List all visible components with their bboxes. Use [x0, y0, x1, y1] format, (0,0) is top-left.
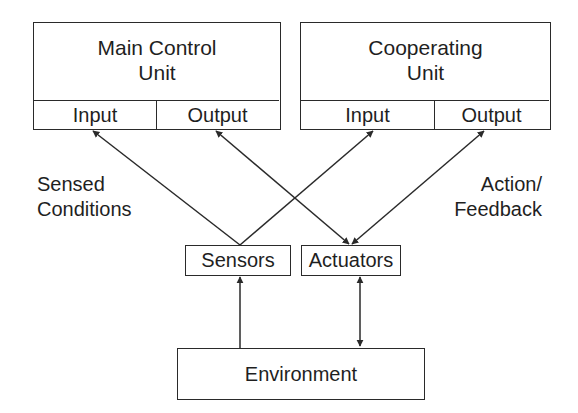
coop-title-line2: Unit — [301, 60, 550, 85]
main-title-line1: Main Control — [34, 35, 280, 60]
coop-title-line1: Cooperating — [301, 35, 550, 60]
main-output-port: Output — [156, 100, 279, 129]
annotation-left-line1: Sensed — [37, 172, 132, 197]
cooperating-unit-box: Cooperating Unit Input Output — [300, 22, 551, 130]
main-input-label: Input — [73, 104, 117, 126]
main-title-line2: Unit — [34, 60, 280, 85]
annotation-left-line2: Conditions — [37, 197, 132, 222]
coop-input-label: Input — [345, 104, 389, 126]
action-feedback-annotation: Action/ Feedback — [436, 172, 542, 222]
arrow-main-output-to-actuators — [216, 131, 349, 244]
sensors-label-wrap: Sensors — [186, 246, 290, 274]
main-output-label: Output — [187, 104, 247, 126]
actuators-label: Actuators — [309, 249, 393, 271]
actuators-box: Actuators — [301, 245, 401, 276]
coop-output-label: Output — [461, 104, 521, 126]
actuators-label-wrap: Actuators — [302, 246, 400, 274]
main-input-port: Input — [34, 100, 157, 129]
environment-box: Environment — [177, 348, 425, 400]
annotation-right-line1: Action/ — [436, 172, 542, 197]
coop-output-port: Output — [434, 100, 549, 129]
environment-label-wrap: Environment — [178, 360, 424, 388]
cooperating-unit-title: Cooperating Unit — [301, 35, 550, 85]
annotation-right-line2: Feedback — [436, 197, 542, 222]
sensed-conditions-annotation: Sensed Conditions — [37, 172, 132, 222]
sensors-label: Sensors — [201, 249, 274, 271]
environment-label: Environment — [245, 363, 357, 385]
sensors-box: Sensors — [185, 245, 291, 276]
main-control-unit-title: Main Control Unit — [34, 35, 280, 85]
main-control-unit-box: Main Control Unit Input Output — [33, 22, 281, 130]
coop-input-port: Input — [301, 100, 435, 129]
arrow-sensors-to-coop-input — [240, 131, 373, 245]
